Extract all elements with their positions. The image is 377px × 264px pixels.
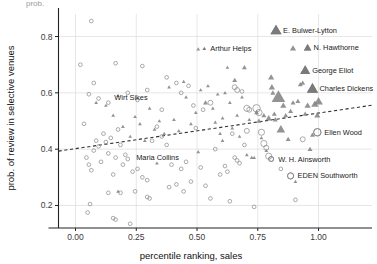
x-tick-label: 1.00 (310, 232, 327, 242)
point-label: George Eliot (312, 66, 353, 75)
point-label: N. Hawthorne (314, 43, 359, 52)
point-label: E. Bulwer-Lytton (283, 26, 337, 35)
point-label: Maria Collins (136, 153, 179, 162)
figure-background (0, 0, 377, 264)
point-label: Ellen Wood (324, 128, 362, 137)
point-label: EDEN Southworth (298, 171, 358, 180)
y-axis-title: prob. of review in selective venues (5, 45, 16, 190)
x-tick-label: 0.50 (189, 232, 206, 242)
scatter-plot-figure: prob. E. Bulwer-LyttonN. HawthorneArthur… (0, 0, 377, 264)
point-label: W. H. Ainsworth (278, 155, 330, 164)
point-label: Arthur Helps (210, 44, 251, 53)
clipped-top-fragment: prob. (26, 0, 44, 8)
point-label: Charles Dickens (319, 84, 373, 93)
y-tick-label: 0.6 (41, 88, 53, 98)
x-tick-label: 0.25 (128, 232, 145, 242)
x-tick-label: 0.75 (250, 232, 267, 242)
x-axis-title: percentile ranking, sales (140, 250, 243, 261)
y-tick-label: 0.2 (41, 200, 53, 210)
y-tick-label: 0.8 (41, 32, 53, 42)
point-label: Wirt Sikes (114, 93, 148, 102)
chart-canvas: prob. E. Bulwer-LyttonN. HawthorneArthur… (0, 0, 377, 264)
x-tick-label: 0.00 (67, 232, 84, 242)
y-tick-label: 0.4 (41, 144, 53, 154)
